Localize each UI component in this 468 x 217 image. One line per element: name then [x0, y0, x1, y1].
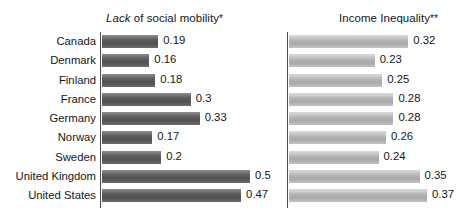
bar-value-label: 0.47	[246, 188, 268, 200]
bar	[102, 189, 241, 202]
bar-row: 0.2	[100, 148, 275, 167]
bar	[102, 93, 191, 106]
bar-row: 0.35	[287, 167, 468, 186]
bar	[289, 54, 375, 67]
bar-value-label: 0.28	[398, 92, 420, 104]
panel-title-right-footnote-marker: **	[430, 13, 438, 24]
plot-panel-social-mobility: 0.190.160.180.30.330.170.20.50.47	[100, 32, 275, 210]
bar	[102, 54, 149, 67]
bar	[102, 131, 152, 144]
category-label: Sweden	[0, 148, 96, 167]
bar-row: 0.23	[287, 51, 468, 70]
bar-value-label: 0.19	[163, 34, 185, 46]
bar-value-label: 0.37	[432, 188, 454, 200]
bar	[102, 112, 200, 125]
category-label: Canada	[0, 32, 96, 51]
panel-title-left-rest: of social mobility	[131, 12, 220, 24]
bar	[289, 74, 382, 87]
bar	[289, 112, 393, 125]
bar-value-label: 0.3	[196, 92, 212, 104]
panel-title-right-rest: Income Inequality	[339, 12, 430, 24]
bar-value-label: 0.23	[380, 53, 402, 65]
bar	[102, 74, 155, 87]
bar-value-label: 0.26	[391, 130, 413, 142]
category-label: United States	[0, 186, 96, 205]
bar	[289, 170, 420, 183]
bar-row: 0.33	[100, 109, 275, 128]
bar-value-label: 0.5	[255, 169, 271, 181]
bar-chart-figure: Lack of social mobility* Income Inequali…	[0, 0, 468, 217]
category-axis: CanadaDenmarkFinlandFranceGermanyNorwayS…	[0, 32, 96, 206]
category-label: Germany	[0, 109, 96, 128]
bar-value-label: 0.16	[154, 53, 176, 65]
panel-title-left-emphasis: Lack	[106, 12, 131, 24]
bar-row: 0.18	[100, 71, 275, 90]
bar-row: 0.16	[100, 51, 275, 70]
bar-value-label: 0.33	[205, 111, 227, 123]
bar-row: 0.37	[287, 186, 468, 205]
bar-value-label: 0.18	[160, 73, 182, 85]
bar	[289, 189, 427, 202]
bar-row: 0.3	[100, 90, 275, 109]
bar-row: 0.28	[287, 90, 468, 109]
bar-row: 0.26	[287, 128, 468, 147]
category-label: Norway	[0, 128, 96, 147]
bar-row: 0.17	[100, 128, 275, 147]
panel-title-left-footnote-marker: *	[219, 13, 223, 24]
bar	[102, 170, 250, 183]
category-label: Finland	[0, 71, 96, 90]
bar-row: 0.5	[100, 167, 275, 186]
bar-value-label: 0.28	[398, 111, 420, 123]
category-label: France	[0, 90, 96, 109]
bar-value-label: 0.32	[413, 34, 435, 46]
bar	[102, 35, 158, 48]
bar-row: 0.28	[287, 109, 468, 128]
bar	[289, 93, 393, 106]
bar	[289, 151, 379, 164]
bar-row: 0.25	[287, 71, 468, 90]
bar-value-label: 0.24	[384, 150, 406, 162]
bar-value-label: 0.17	[157, 130, 179, 142]
category-label: United Kingdom	[0, 167, 96, 186]
category-label: Denmark	[0, 51, 96, 70]
bar-row: 0.32	[287, 32, 468, 51]
panel-title-social-mobility: Lack of social mobility*	[106, 12, 223, 24]
bar-value-label: 0.35	[425, 169, 447, 181]
bar	[289, 35, 408, 48]
panel-title-income-inequality: Income Inequality**	[339, 12, 438, 24]
bar-value-label: 0.25	[387, 73, 409, 85]
plot-panel-income-inequality: 0.320.230.250.280.280.260.240.350.37	[287, 32, 468, 210]
bar-row: 0.24	[287, 148, 468, 167]
bar-value-label: 0.2	[166, 150, 182, 162]
bar-row: 0.47	[100, 186, 275, 205]
bar	[102, 151, 161, 164]
bar-row: 0.19	[100, 32, 275, 51]
bar	[289, 131, 386, 144]
